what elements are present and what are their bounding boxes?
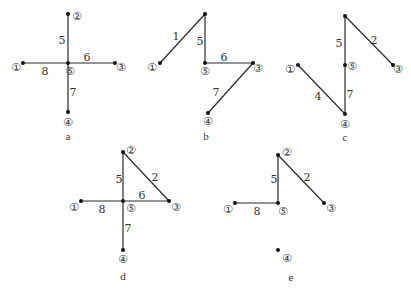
panel-e: 528②⑤①③④e: [223, 146, 336, 283]
node-1-label: ①: [11, 61, 21, 74]
node-3-label: ③: [116, 61, 126, 74]
edge-weight-label: 8: [42, 65, 49, 78]
panel-caption: e: [289, 271, 294, 283]
node-4-dot: [121, 248, 125, 252]
node-3-label: ③: [171, 201, 181, 214]
node-4-dot: [276, 248, 280, 252]
node-2-dot: [276, 153, 280, 157]
edge-weight-label: 2: [304, 171, 311, 184]
panel-b: 1567①⑤③④b: [147, 12, 263, 142]
edge-weight-label: 2: [371, 34, 378, 47]
node-1-label: ①: [69, 201, 79, 214]
node-1-dot: [158, 61, 162, 65]
node-5-label: ⑤: [347, 60, 357, 73]
node-4-dot: [343, 112, 347, 116]
node-3-label: ③: [253, 62, 263, 75]
node-2-dot: [343, 14, 347, 18]
node-2-label: ②: [282, 146, 292, 159]
edge-2-3: [278, 155, 324, 203]
edge-weight-label: 2: [152, 171, 159, 184]
edge-weight-label: 8: [99, 203, 106, 216]
node-1-dot: [79, 199, 83, 203]
node-4-dot: [66, 110, 70, 114]
panel-caption: a: [66, 130, 71, 142]
node-2-dot: [66, 12, 70, 16]
graph-diagram-figure: 5687②⑤①③④a1567①⑤③④b5247③⑤①④c52687②⑤①③④d5…: [0, 0, 411, 296]
edge-weight-label: 7: [70, 86, 77, 99]
panel-caption: d: [120, 270, 126, 282]
node-1-label: ①: [223, 203, 233, 216]
node-2-dot: [203, 12, 207, 16]
node-1-dot: [233, 201, 237, 205]
panel-c: 5247③⑤①④c: [285, 14, 403, 143]
panel-caption: b: [203, 130, 209, 142]
node-5-label: ⑤: [278, 205, 288, 218]
edge-weight-label: 1: [173, 30, 180, 43]
diagram-svg: 5687②⑤①③④a1567①⑤③④b5247③⑤①④c52687②⑤①③④d5…: [0, 0, 411, 296]
edge-weight-label: 7: [125, 222, 132, 235]
node-1-label: ①: [285, 63, 295, 76]
node-5-dot: [121, 199, 125, 203]
node-5-label: ⑤: [65, 65, 75, 78]
edge-weight-label: 5: [59, 34, 66, 47]
node-5-label: ⑤: [200, 65, 210, 78]
node-4-label: ④: [118, 253, 128, 266]
edge-weight-label: 5: [116, 173, 123, 186]
node-2-dot: [121, 150, 125, 154]
edge-1-4: [298, 65, 345, 114]
panel-a: 5687②⑤①③④a: [11, 10, 126, 142]
panel-d: 52687②⑤①③④d: [69, 144, 181, 282]
edge-weight-label: 7: [347, 88, 354, 101]
edge-weight-label: 6: [84, 51, 91, 64]
edge-weight-label: 5: [336, 37, 343, 50]
node-3-label: ③: [393, 63, 403, 76]
panel-caption: c: [343, 131, 348, 143]
node-2-label: ②: [126, 144, 136, 157]
node-1-dot: [21, 61, 25, 65]
node-2-label: ②: [72, 10, 82, 23]
edge-weight-label: 5: [197, 35, 204, 48]
node-5-label: ⑤: [126, 202, 136, 215]
edge-2-3: [123, 152, 169, 201]
edge-weight-label: 7: [213, 86, 220, 99]
node-4-label: ④: [203, 115, 213, 128]
node-4-label: ④: [282, 252, 292, 265]
edge-2-3: [345, 16, 393, 65]
edge-weight-label: 6: [139, 189, 146, 202]
edge-weight-label: 8: [254, 205, 261, 218]
edge-weight-label: 6: [221, 51, 228, 64]
node-4-label: ④: [63, 116, 73, 129]
node-4-label: ④: [340, 118, 350, 131]
node-1-label: ①: [147, 61, 157, 74]
edge-weight-label: 4: [315, 90, 322, 103]
edge-weight-label: 5: [271, 173, 278, 186]
node-1-dot: [296, 63, 300, 67]
node-3-label: ③: [326, 202, 336, 215]
